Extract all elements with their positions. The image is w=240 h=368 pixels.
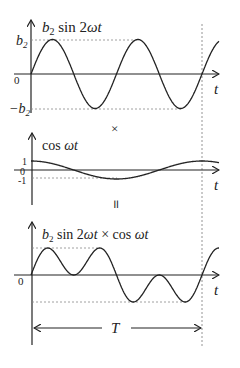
product-of-sinusoids-diagram: b2 sin 2ωt b2 0 −b2 t × cos ωt 1 0 -1 t … xyxy=(0,0,240,368)
top-panel: b2 sin 2ωt b2 0 −b2 t xyxy=(9,19,219,118)
top-x-axis-label: t xyxy=(214,81,219,97)
times-operator: × xyxy=(111,121,118,136)
middle-function-label: cos ωt xyxy=(42,138,79,153)
middle-panel: cos ωt 1 0 -1 t xyxy=(14,133,219,205)
top-function-label: b2 sin 2ωt xyxy=(42,19,103,37)
bottom-origin-label: 0 xyxy=(18,275,24,287)
bottom-function-label: b2 sin 2ωt × cos ωt xyxy=(42,227,150,244)
period-label: T xyxy=(111,320,121,336)
top-origin-label: 0 xyxy=(14,74,20,86)
top-y-tick-b2: b2 xyxy=(16,33,28,50)
middle-y-tick-neg1: -1 xyxy=(18,175,26,186)
middle-x-axis-label: t xyxy=(214,177,219,193)
bottom-panel: b2 sin 2ωt × cos ωt 0 t T xyxy=(14,222,219,345)
bottom-x-axis-label: t xyxy=(214,282,219,298)
top-y-tick-neg-b2: −b2 xyxy=(9,101,30,118)
equals-operator: ॥ xyxy=(112,197,119,211)
